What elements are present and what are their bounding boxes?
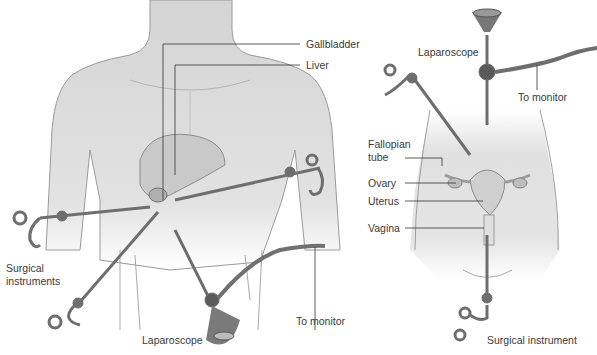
laparoscopy-illustration (0, 0, 597, 355)
gallbladder-shape (149, 188, 167, 202)
label-fallopian-tube-1: Fallopian (368, 138, 411, 150)
label-laparoscope-right: Laparoscope (418, 46, 479, 58)
label-surgical-instrument: Surgical instrument (487, 334, 577, 346)
label-vagina: Vagina (368, 222, 400, 234)
label-surgical-instruments-1: Surgical (6, 262, 44, 274)
label-laparoscope-left: Laparoscope (142, 334, 203, 346)
pelvis-figure (410, 110, 560, 280)
label-uterus: Uterus (368, 195, 399, 207)
torso-figure (46, 0, 340, 330)
label-to-monitor-left: To monitor (296, 315, 345, 327)
label-liver: Liver (306, 59, 329, 71)
label-gallbladder: Gallbladder (306, 38, 360, 50)
label-ovary: Ovary (368, 177, 396, 189)
label-surgical-instruments-2: instruments (6, 275, 60, 287)
label-fallopian-tube-2: tube (368, 151, 388, 163)
label-to-monitor-right: To monitor (518, 91, 567, 103)
